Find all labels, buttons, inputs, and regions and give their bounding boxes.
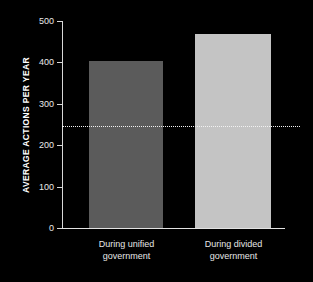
plot-area: 0 100 200 300 400 500 bbox=[62, 21, 285, 228]
bar-divided-government bbox=[195, 34, 271, 228]
y-tick-label-500: 500 bbox=[39, 16, 54, 26]
y-tick-label-200: 200 bbox=[39, 140, 54, 150]
y-tick-label-400: 400 bbox=[39, 57, 54, 67]
reference-line bbox=[62, 126, 300, 127]
y-axis-title: AVERAGE ACTIONS PER YEAR bbox=[18, 30, 34, 220]
x-category-label-unified: During unified government bbox=[79, 238, 174, 262]
chart-figure: AVERAGE ACTIONS PER YEAR 0 100 200 300 4… bbox=[0, 0, 313, 282]
bar-unified-government bbox=[89, 61, 163, 228]
y-tick-label-300: 300 bbox=[39, 99, 54, 109]
y-tick-label-0: 0 bbox=[49, 223, 54, 233]
y-tick-label-100: 100 bbox=[39, 182, 54, 192]
x-axis-line bbox=[62, 228, 285, 229]
y-axis-title-text: AVERAGE ACTIONS PER YEAR bbox=[21, 57, 31, 193]
y-axis-line bbox=[62, 21, 63, 228]
x-category-label-divided: During divided government bbox=[186, 238, 281, 262]
